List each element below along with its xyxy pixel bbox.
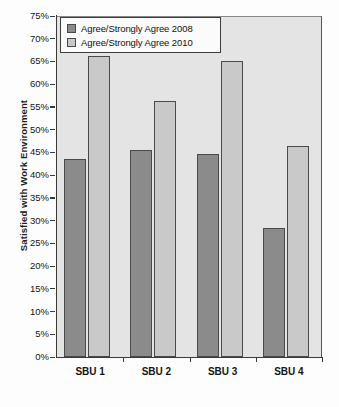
y-axis-tick-label: 55% (0, 101, 55, 113)
bar-sbu-4-2008 (263, 228, 285, 357)
y-axis-tick-label: 20% (0, 260, 55, 272)
y-axis-tick-label: 15% (0, 283, 55, 295)
y-axis-tick-label: 10% (0, 306, 55, 318)
legend-label-2010: Agree/Strongly Agree 2010 (81, 37, 193, 48)
legend-item-2010: Agree/Strongly Agree 2010 (65, 35, 216, 49)
bar-sbu-3-2008 (197, 154, 219, 357)
y-axis-tick-label: 70% (0, 33, 55, 45)
bar-sbu-2-2010 (154, 101, 176, 357)
y-axis-tick-label: 5% (0, 328, 55, 340)
x-axis-tick (123, 357, 124, 362)
bar-sbu-4-2010 (287, 146, 309, 357)
legend-swatch-2008-icon (67, 24, 76, 33)
y-axis-tick-label: 25% (0, 237, 55, 249)
y-axis-tick-label: 50% (0, 124, 55, 136)
bar-sbu-1-2010 (88, 56, 110, 357)
x-axis-tick (190, 357, 191, 362)
x-axis-label-sbu-2: SBU 2 (121, 366, 191, 377)
y-axis-tick-label: 30% (0, 215, 55, 227)
y-axis-tick-label: 75% (0, 10, 55, 22)
y-axis-tick-label: 40% (0, 169, 55, 181)
x-axis-label-sbu-1: SBU 1 (55, 366, 125, 377)
x-axis-label-sbu-3: SBU 3 (188, 366, 258, 377)
y-axis-tick-label: 65% (0, 55, 55, 67)
y-axis-tick-label: 45% (0, 146, 55, 158)
legend-swatch-2010-icon (67, 38, 76, 47)
chart-legend: Agree/Strongly Agree 2008 Agree/Strongly… (60, 17, 221, 53)
bar-sbu-1-2008 (64, 159, 86, 357)
plot-area (57, 16, 322, 357)
x-axis-tick (256, 357, 257, 362)
bar-chart: Satisfied with Work Environment 0%5%10%1… (0, 0, 339, 407)
x-axis-tick (322, 357, 323, 362)
y-axis-tick-label: 60% (0, 78, 55, 90)
y-axis-tick-label: 35% (0, 192, 55, 204)
legend-label-2008: Agree/Strongly Agree 2008 (81, 23, 193, 34)
x-axis-label-sbu-4: SBU 4 (254, 366, 324, 377)
legend-item-2008: Agree/Strongly Agree 2008 (65, 21, 216, 35)
bar-sbu-3-2010 (221, 61, 243, 357)
bar-sbu-2-2008 (130, 150, 152, 357)
y-axis-tick-label: 0% (0, 351, 55, 363)
